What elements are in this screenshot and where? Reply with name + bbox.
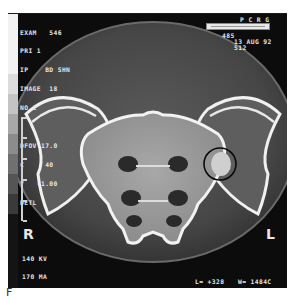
image-protocol: IP BD SHN [20,67,70,73]
kv: 140 KV [22,256,89,262]
overlay-top-left: EXAM 546 PRI 1 IP BD SHN IMAGE 18 NO C D… [20,17,70,219]
overlay-bottom-left: 140 KV 170 MA LRG SFOV 5.0 MM 20.0 TILT … [22,243,89,288]
scale-ruler [21,117,23,221]
image-number: IMAGE 18 [20,86,70,92]
orientation-right: R [23,226,34,242]
window-level: L= +328 [195,279,224,285]
foramen [168,156,188,172]
study-number: 485 [222,33,235,39]
lesion [211,152,231,176]
orientation-left: L [266,226,275,242]
ruler-tick [23,179,27,181]
figure-label: F [6,286,12,299]
detail: DETL [20,200,70,206]
ma: 170 MA [22,274,89,280]
grayscale-bar [8,14,18,288]
window-width: W= 1484C [238,279,272,285]
ruler-tick [23,158,27,160]
foramen [168,190,188,206]
dfov: DFOV 17.0 [20,143,70,149]
exam-number: EXAM 546 [20,30,70,36]
priority: PRI 1 [20,48,70,54]
center: C 40 [20,162,70,168]
ruler-tick [23,137,27,139]
foramen [166,215,182,227]
foramen [121,190,141,206]
ruler-tick [23,117,27,119]
matrix-size: 512 [234,45,247,51]
ruler-tick [23,220,27,222]
ruler-tick [23,200,27,202]
ct-image-frame: EXAM 546 PRI 1 IP BD SHN IMAGE 18 NO C D… [8,14,287,288]
patient-name-redaction [206,23,270,30]
contrast: NO C [20,105,70,111]
foramen [126,215,142,227]
foramen [118,156,138,172]
y-value: Y -1.00 [20,181,70,187]
